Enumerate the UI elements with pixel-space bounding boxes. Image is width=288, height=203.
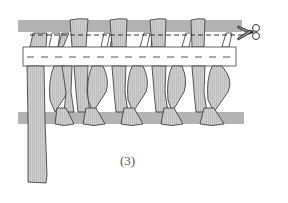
figure-label: (3) <box>120 153 135 169</box>
sewing-diagram <box>0 0 288 203</box>
